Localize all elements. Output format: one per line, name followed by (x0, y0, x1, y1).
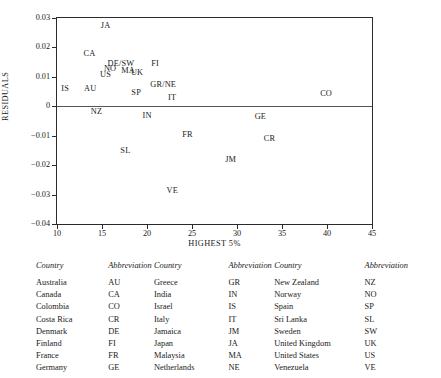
y-tick (52, 195, 57, 196)
point-label-nz: NZ (91, 107, 102, 115)
table-cell: SW (365, 325, 408, 337)
table-cell: AU (108, 277, 154, 289)
table-cell: CO (108, 301, 154, 313)
y-tick-label: −0.03 (31, 190, 50, 198)
table-row: FinlandFIJapanJAUnited KingdomUK (36, 337, 408, 349)
point-label-ca: CA (83, 50, 95, 58)
table-cell: Denmark (36, 325, 108, 337)
point-label-uk: UK (131, 69, 143, 77)
x-tick-label: 35 (278, 230, 286, 238)
y-tick-label: −0.01 (31, 132, 50, 140)
table-cell: NZ (365, 277, 408, 289)
table-row: GermanyGENetherlandsNEVenezuelaVE (36, 362, 408, 374)
table-cell: FI (108, 337, 154, 349)
point-label-gr-ne: GR/NE (150, 81, 176, 89)
point-label-sp: SP (131, 89, 141, 97)
table-cell: GR (228, 277, 274, 289)
table-cell: Sweden (274, 325, 364, 337)
y-tick (52, 136, 57, 137)
table-cell: VE (365, 362, 408, 374)
y-tick-label: 0 (46, 102, 50, 110)
point-label-it: IT (168, 94, 176, 102)
table-header-cell: Country (274, 261, 364, 277)
y-tick (52, 106, 57, 107)
y-tick (52, 18, 57, 19)
table-row: FranceFRMalaysiaMAUnited StatesUS (36, 350, 408, 362)
table-cell: NO (365, 289, 408, 301)
table-header-cell: Country (36, 261, 108, 277)
point-label-fr: FR (182, 131, 193, 139)
y-tick (52, 165, 57, 166)
table-cell: US (365, 350, 408, 362)
point-label-ja: JA (101, 22, 111, 30)
x-tick-label: 30 (233, 230, 241, 238)
y-tick-label: −0.04 (31, 220, 50, 228)
table-row: ColombiaCOIsraelISSpainSP (36, 301, 408, 313)
zero-reference-line (57, 106, 372, 107)
table-cell: Germany (36, 362, 108, 374)
point-label-us: US (100, 71, 111, 79)
point-label-in: IN (142, 112, 151, 120)
table-cell: Jamaica (154, 325, 228, 337)
point-label-is: IS (61, 85, 69, 93)
point-label-ve: VE (166, 187, 177, 195)
table-cell: Israel (154, 301, 228, 313)
table-header-cell: Abbreviation (228, 261, 274, 277)
table-cell: CA (108, 289, 154, 301)
y-tick-label: 0.02 (36, 43, 50, 51)
table-cell: Spain (274, 301, 364, 313)
table-header-cell: Abbreviation (365, 261, 408, 277)
point-label-cr: CR (264, 135, 275, 143)
abbreviation-table: CountryAbbreviationCountryAbbreviationCo… (36, 261, 408, 374)
x-tick-label: 20 (143, 230, 151, 238)
table-row: Costa RicaCRItalyITSri LankaSL (36, 313, 408, 325)
table-cell: Italy (154, 313, 228, 325)
table-cell: MA (228, 350, 274, 362)
table-cell: Australia (36, 277, 108, 289)
x-tick-label: 15 (98, 230, 106, 238)
x-tick-label: 40 (323, 230, 331, 238)
table-cell: CR (108, 313, 154, 325)
table-cell: FR (108, 350, 154, 362)
y-tick-label: 0.01 (36, 73, 50, 81)
y-tick-label: 0.03 (36, 14, 50, 22)
table-header-cell: Country (154, 261, 228, 277)
table-cell: Sri Lanka (274, 313, 364, 325)
y-tick (52, 47, 57, 48)
table-cell: IN (228, 289, 274, 301)
table-cell: SL (365, 313, 408, 325)
table-cell: Finland (36, 337, 108, 349)
table-header-cell: Abbreviation (108, 261, 154, 277)
table-cell: Malaysia (154, 350, 228, 362)
table-cell: Japan (154, 337, 228, 349)
table-cell: India (154, 289, 228, 301)
x-axis-title: HIGHEST 5% (56, 239, 373, 248)
table-cell: Colombia (36, 301, 108, 313)
x-tick-label: 45 (368, 230, 376, 238)
table-cell: JM (228, 325, 274, 337)
x-tick-label: 25 (188, 230, 196, 238)
table-cell: IT (228, 313, 274, 325)
x-tick-label: 10 (53, 230, 61, 238)
table-cell: Netherlands (154, 362, 228, 374)
plot-frame: 0.030.020.010−0.01−0.02−0.03−0.04 101520… (56, 17, 373, 225)
table-cell: Greece (154, 277, 228, 289)
table-cell: United States (274, 350, 364, 362)
table-cell: NE (228, 362, 274, 374)
table-cell: SP (365, 301, 408, 313)
table-cell: United Kingdom (274, 337, 364, 349)
table-cell: Venezuela (274, 362, 364, 374)
y-tick-label: −0.02 (31, 161, 50, 169)
table-cell: IS (228, 301, 274, 313)
table-cell: JA (228, 337, 274, 349)
table-cell: Norway (274, 289, 364, 301)
table-row: AustraliaAUGreeceGRNew ZealandNZ (36, 277, 408, 289)
point-label-jm: JM (225, 156, 236, 164)
table-cell: Canada (36, 289, 108, 301)
residual-scatter-chart: RESIDUALS 0.030.020.010−0.01−0.02−0.03−0… (0, 0, 441, 250)
table-row: DenmarkDEJamaicaJMSwedenSW (36, 325, 408, 337)
table-cell: France (36, 350, 108, 362)
point-label-fi: FI (151, 60, 159, 68)
y-tick (52, 77, 57, 78)
point-label-ge: GE (255, 112, 266, 120)
